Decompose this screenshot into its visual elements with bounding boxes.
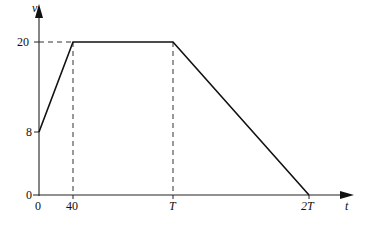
- x-axis-label: t: [345, 200, 348, 212]
- velocity-time-graph: v 20 8 0 0 40 T 2T t: [0, 0, 366, 228]
- y-tick-0: 0: [26, 189, 32, 201]
- y-tick-8: 8: [26, 126, 32, 138]
- x-tick-2T: 2T: [301, 200, 314, 212]
- x-axis-arrow-icon: [340, 191, 354, 199]
- velocity-line: [39, 42, 309, 195]
- x-tick-40: 40: [66, 200, 78, 212]
- x-tick-0: 0: [35, 200, 41, 212]
- x-tick-T: T: [169, 200, 176, 212]
- y-axis-label: v: [32, 2, 37, 14]
- chart-canvas: [0, 0, 366, 228]
- y-tick-20: 20: [17, 36, 29, 48]
